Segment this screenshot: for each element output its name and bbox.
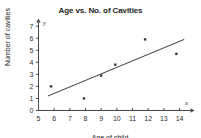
data-point xyxy=(50,85,52,87)
y-tick-label: 3 xyxy=(30,71,34,78)
data-point xyxy=(175,53,177,55)
x-tick-label: 9 xyxy=(99,115,103,122)
x-axis-arrow-icon xyxy=(191,108,195,112)
x-tick-label: 7 xyxy=(68,115,72,122)
x-tick-label: 14 xyxy=(176,115,184,122)
y-tick-label: 0 xyxy=(30,107,34,114)
data-point xyxy=(83,97,85,99)
x-tick-label: 8 xyxy=(84,115,88,122)
plot-area: 56789101112131401234567xy xyxy=(0,0,201,138)
y-tick-label: 4 xyxy=(30,59,34,66)
data-point xyxy=(114,63,116,65)
y-tick-label: 2 xyxy=(30,83,34,90)
x-tick-label: 13 xyxy=(160,115,168,122)
y-tick-label: 5 xyxy=(30,47,34,54)
x-tick-label: 6 xyxy=(52,115,56,122)
y-axis-label: Number of cavities xyxy=(4,1,11,73)
x-axis-label: Age of child xyxy=(92,134,129,138)
data-point xyxy=(144,38,146,40)
y-axis-arrow-icon xyxy=(36,19,40,23)
x-tick-label: 5 xyxy=(37,115,41,122)
data-point xyxy=(100,74,102,76)
x-tick-label: 10 xyxy=(113,115,121,122)
x-tick-label: 11 xyxy=(129,115,136,122)
y-axis-letter: y xyxy=(42,19,47,27)
y-tick-label: 6 xyxy=(30,35,34,42)
y-tick-label: 7 xyxy=(30,23,34,30)
scatter-chart: Age vs. No. of Cavities 5678910111213140… xyxy=(0,0,201,138)
x-tick-label: 12 xyxy=(144,115,152,122)
trend-line xyxy=(48,39,184,96)
x-axis-letter: x xyxy=(184,99,189,107)
y-tick-label: 1 xyxy=(30,95,34,102)
